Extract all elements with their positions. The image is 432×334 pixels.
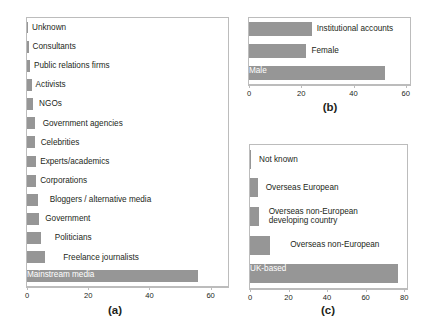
bar-label: Not known: [251, 155, 298, 164]
axis-tick-label: 20: [284, 293, 292, 302]
bar: [27, 232, 41, 244]
bar-label: Experts/academics: [36, 157, 109, 166]
panel-b: Institutional accountsFemaleMale 0204060…: [230, 0, 432, 130]
axis-tick-label: 60: [402, 89, 410, 98]
axis-tick: [27, 287, 28, 290]
bar-label: Female: [306, 46, 338, 55]
axis-tick: [327, 289, 328, 292]
bar-label: Institutional accounts: [312, 24, 393, 33]
bar: [250, 207, 259, 226]
axis-tick: [88, 287, 89, 290]
axis-tick-label: 60: [361, 293, 369, 302]
bar-label: Mainstream media: [27, 270, 198, 279]
panel-c-bars: Not knownOverseas EuropeanOverseas non-E…: [250, 145, 408, 288]
bar: [27, 213, 39, 225]
bar-label: Public relations firms: [30, 61, 110, 70]
bar-row: Institutional accounts: [249, 22, 411, 37]
bar: [250, 178, 258, 197]
panel-a-x-axis: 0204060: [26, 287, 229, 305]
bar-label: Corporations: [36, 176, 87, 185]
bar-label: Unknown: [28, 23, 66, 32]
axis-line: [248, 85, 411, 86]
bar-label: Bloggers / alternative media: [38, 195, 152, 204]
bar-label: Politicians: [41, 233, 92, 242]
axis-tick-label: 20: [84, 291, 92, 300]
bar: [27, 251, 45, 263]
bar-row: Not known: [250, 150, 408, 169]
bar-row: Corporations: [27, 175, 229, 187]
axis-tick-label: 20: [297, 89, 305, 98]
bar: [27, 175, 36, 187]
axis-tick-label: 40: [145, 291, 153, 300]
bar-label: NGOs: [33, 99, 62, 108]
bar-label: Freelance journalists: [45, 253, 139, 262]
bar: UK-based: [250, 264, 398, 283]
bar-row: Overseas non-European developing country: [250, 207, 408, 226]
bar-label: Male: [249, 66, 385, 75]
bar-row: Activists: [27, 79, 229, 91]
axis-tick-label: 40: [349, 89, 357, 98]
bar-row: Experts/academics: [27, 156, 229, 168]
bar-row: Overseas European: [250, 178, 408, 197]
axis-tick-label: 60: [206, 291, 214, 300]
bar-row: Mainstream media: [27, 270, 229, 282]
bar-row: Public relations firms: [27, 60, 229, 72]
panel-c-caption: (c): [308, 304, 348, 316]
axis-tick: [301, 85, 302, 88]
bar-label: Overseas non-European: [270, 240, 379, 249]
bar-row: Government: [27, 213, 229, 225]
bar-row: Celebrities: [27, 136, 229, 148]
axis-tick-label: 0: [247, 89, 251, 98]
axis-tick-label: 40: [323, 293, 331, 302]
axis-tick: [366, 289, 367, 292]
bar-row: Consultants: [27, 41, 229, 53]
bar-row: Male: [249, 66, 411, 81]
bar: Mainstream media: [27, 270, 198, 282]
bar-row: Government agencies: [27, 117, 229, 129]
bar-row: Unknown: [27, 22, 229, 34]
bar: Male: [249, 66, 385, 81]
axis-line: [249, 289, 408, 290]
panel-a-bars: UnknownConsultantsPublic relations firms…: [27, 18, 229, 286]
axis-tick: [249, 85, 250, 88]
bar-row: Freelance journalists: [27, 251, 229, 263]
bar-label: Consultants: [29, 42, 76, 51]
bar: [27, 156, 36, 168]
bar-row: Politicians: [27, 232, 229, 244]
bar: [27, 194, 38, 206]
axis-tick: [404, 289, 405, 292]
bar: [249, 22, 312, 37]
bar-row: Overseas non-European: [250, 236, 408, 255]
bar: [27, 117, 35, 129]
bar-row: Female: [249, 44, 411, 59]
axis-tick-label: 0: [25, 291, 29, 300]
bar-label: Overseas European: [258, 183, 339, 192]
bar-label: Government: [39, 214, 90, 223]
panel-b-bars: Institutional accountsFemaleMale: [249, 18, 411, 84]
bar-label: Activists: [32, 80, 66, 89]
bar-label: UK-based: [250, 264, 398, 273]
panel-a: UnknownConsultantsPublic relations firms…: [0, 0, 230, 334]
axis-tick-label: 0: [248, 293, 252, 302]
bar-row: UK-based: [250, 264, 408, 283]
axis-tick: [289, 289, 290, 292]
bar-row: NGOs: [27, 98, 229, 110]
panel-b-caption: (b): [310, 101, 350, 113]
axis-tick: [406, 85, 407, 88]
bar: [249, 44, 306, 59]
bar: [27, 136, 35, 148]
bar-label: Celebrities: [35, 138, 80, 147]
axis-tick: [149, 287, 150, 290]
axis-line: [26, 287, 229, 288]
axis-tick: [211, 287, 212, 290]
axis-tick: [250, 289, 251, 292]
figure-canvas: UnknownConsultantsPublic relations firms…: [0, 0, 432, 334]
panel-a-caption: (a): [95, 304, 135, 316]
axis-tick-label: 80: [400, 293, 408, 302]
bar: [250, 236, 270, 255]
bar-label: Government agencies: [35, 119, 123, 128]
bar-row: Bloggers / alternative media: [27, 194, 229, 206]
axis-tick: [354, 85, 355, 88]
panel-c: Not knownOverseas EuropeanOverseas non-E…: [230, 130, 432, 334]
bar-label: Overseas non-European developing country: [259, 207, 379, 225]
